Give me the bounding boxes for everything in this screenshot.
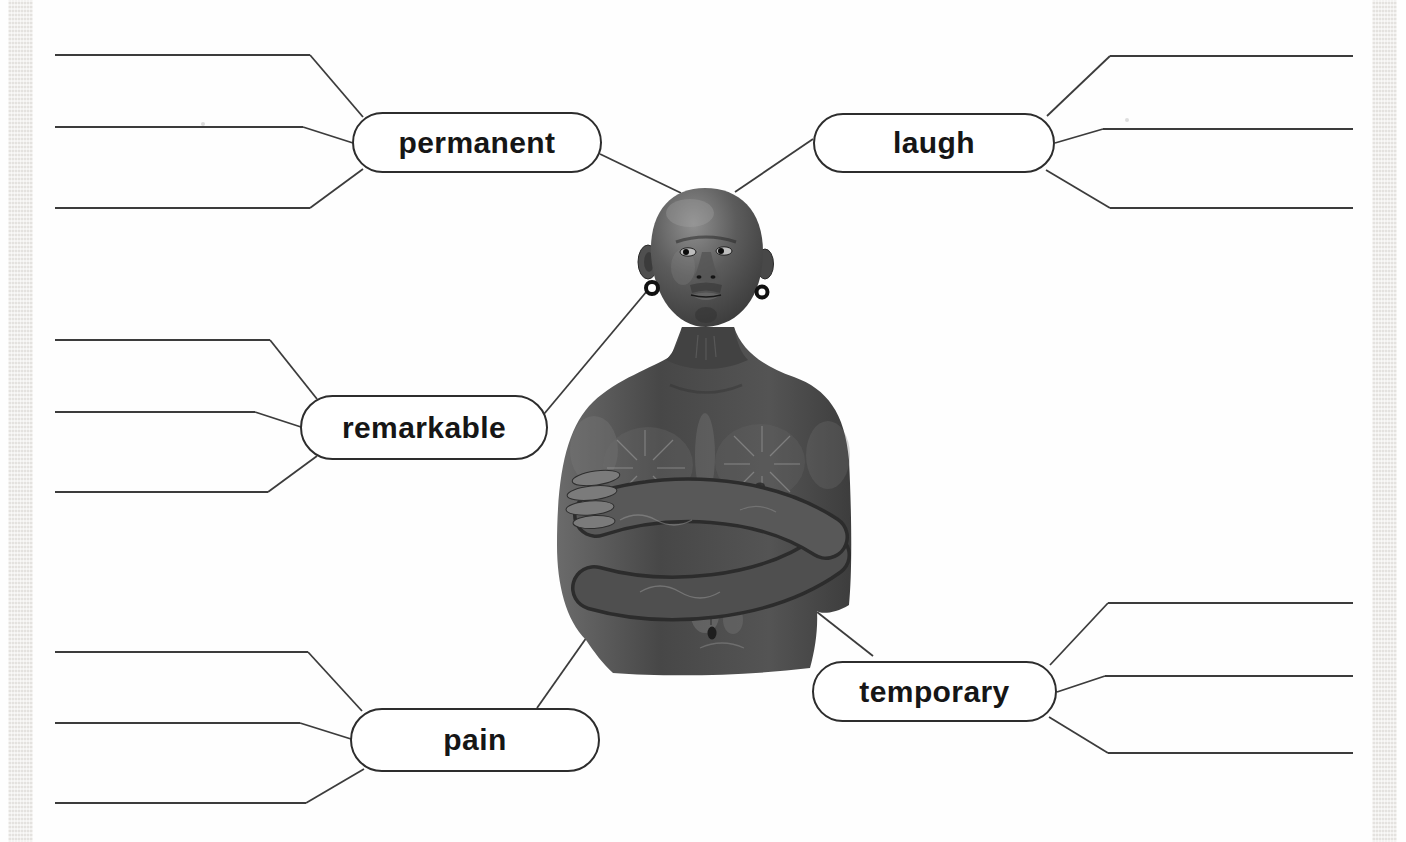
- stub-permanent-1: [310, 55, 363, 117]
- answer-line-permanent-1[interactable]: [55, 54, 310, 56]
- right-eye: [716, 247, 732, 255]
- stub-remarkable-3: [268, 456, 317, 492]
- skull-highlight: [666, 199, 714, 227]
- hand: [566, 468, 621, 530]
- stub-pain-2: [300, 723, 351, 739]
- answer-line-temporary-3[interactable]: [1108, 752, 1353, 754]
- node-pain: pain: [350, 708, 600, 772]
- answer-line-temporary-2[interactable]: [1105, 675, 1353, 677]
- answer-line-remarkable-2[interactable]: [55, 411, 255, 413]
- connector-temporary-figure: [817, 612, 873, 656]
- node-remarkable: remarkable: [300, 395, 548, 460]
- chest-tattoo-bursts: [607, 426, 800, 506]
- answer-line-pain-2[interactable]: [55, 722, 300, 724]
- answer-line-laugh-1[interactable]: [1110, 55, 1353, 57]
- left-eye: [680, 248, 696, 256]
- stub-laugh-1: [1047, 56, 1110, 116]
- connector-permanent-figure: [600, 154, 681, 193]
- answer-line-temporary-1[interactable]: [1108, 602, 1353, 604]
- stub-temporary-2: [1057, 676, 1105, 692]
- brow-ridge: [676, 237, 736, 242]
- answer-line-laugh-2[interactable]: [1103, 128, 1353, 130]
- page-edge-right: [1372, 0, 1397, 842]
- node-remarkable-label: remarkable: [342, 411, 506, 445]
- answer-line-remarkable-3[interactable]: [55, 491, 268, 493]
- lips: [691, 293, 721, 301]
- ears: [638, 245, 774, 279]
- answer-line-remarkable-1[interactable]: [55, 339, 270, 341]
- answer-line-pain-3[interactable]: [55, 802, 306, 804]
- answer-line-laugh-3[interactable]: [1110, 207, 1353, 209]
- node-permanent-label: permanent: [399, 126, 556, 160]
- worksheet-page: permanent laugh remarkable pain temporar…: [0, 0, 1406, 842]
- page-edge-left: [8, 0, 33, 842]
- node-temporary-label: temporary: [859, 675, 1009, 709]
- connector-laugh-figure: [735, 139, 813, 192]
- node-permanent: permanent: [352, 112, 602, 173]
- stub-remarkable-1: [270, 340, 317, 399]
- connector-pain-figure: [537, 617, 601, 708]
- head: [651, 188, 763, 327]
- node-laugh: laugh: [813, 113, 1055, 173]
- answer-line-permanent-3[interactable]: [55, 207, 310, 209]
- belly-detail: [691, 597, 744, 648]
- stub-permanent-2: [303, 127, 353, 143]
- stub-laugh-3: [1046, 170, 1110, 208]
- stub-remarkable-2: [255, 412, 301, 427]
- figure-torso: [557, 327, 851, 675]
- node-laugh-label: laugh: [893, 126, 975, 160]
- face-details: [666, 199, 736, 323]
- crossed-arms: [594, 500, 828, 598]
- neck: [666, 327, 748, 369]
- nose: [694, 252, 719, 282]
- stub-temporary-3: [1049, 717, 1108, 753]
- stub-permanent-3: [310, 169, 363, 208]
- connector-remarkable-figure: [544, 291, 647, 414]
- node-pain-label: pain: [443, 723, 506, 757]
- stub-pain-1: [308, 652, 362, 711]
- nipples: [638, 483, 765, 494]
- answer-line-permanent-2[interactable]: [55, 126, 303, 128]
- torso-shading: [570, 385, 850, 503]
- answer-line-pain-1[interactable]: [55, 651, 308, 653]
- stub-laugh-2: [1055, 129, 1103, 143]
- mustache: [690, 283, 722, 294]
- goatee: [695, 307, 717, 323]
- earrings: [646, 282, 768, 298]
- stub-pain-3: [306, 769, 364, 803]
- stub-temporary-1: [1050, 603, 1108, 665]
- node-temporary: temporary: [812, 661, 1057, 722]
